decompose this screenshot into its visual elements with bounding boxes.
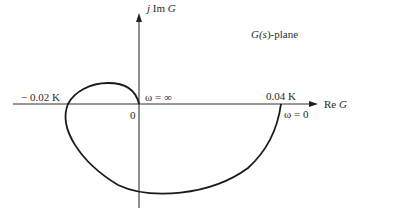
real-axis-label: Re G (324, 99, 347, 110)
real-text: Re (324, 98, 339, 110)
imag-G: G (168, 2, 176, 14)
plane-suffix: )-plane (267, 28, 298, 40)
neg-crossing-label: − 0.02 K (21, 92, 60, 103)
origin-label: 0 (130, 110, 136, 121)
plane-prefix: G( (251, 28, 263, 40)
nyquist-curve (66, 83, 281, 194)
imag-text: Im (150, 2, 168, 14)
pos-crossing-label: 0.04 K (266, 91, 296, 102)
omega-zero-label: ω = 0 (284, 109, 308, 120)
real-G: G (339, 98, 347, 110)
imag-axis-label: j Im G (147, 3, 176, 14)
real-axis-arrow-icon (309, 101, 318, 107)
imag-axis-arrow-icon (136, 13, 142, 22)
omega-infinity-label: ω = ∞ (145, 92, 172, 103)
plane-label: G(s)-plane (251, 29, 298, 40)
nyquist-plot (0, 0, 401, 224)
